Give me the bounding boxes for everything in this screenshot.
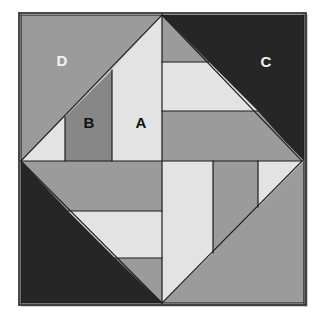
figure-root: ABCD [0,0,327,322]
label-a: A [136,114,147,131]
label-c: C [261,53,272,70]
label-b: B [84,114,95,131]
dissection-diagram: ABCD [0,0,327,322]
label-d: D [57,52,68,69]
